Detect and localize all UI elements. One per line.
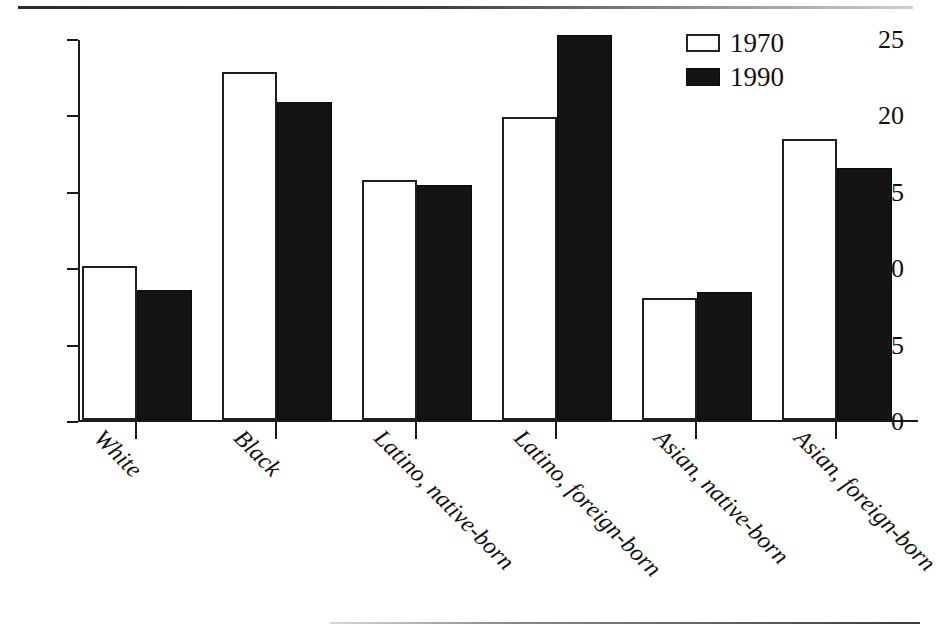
x-axis-label: Latino, native-born	[370, 425, 519, 574]
page-rule-top	[18, 6, 913, 9]
y-tick-mark	[67, 421, 78, 423]
y-tick-mark	[67, 115, 78, 117]
x-axis-labels: WhiteBlackLatino, native-bornLatino, for…	[78, 425, 938, 625]
bar-chart-figure: 2520151050 WhiteBlackLatino, native-born…	[0, 0, 941, 636]
bar-1990-latino-native-born	[417, 185, 472, 420]
x-axis	[78, 420, 918, 422]
bar-1970-white	[82, 266, 137, 420]
bar-1970-latino-foreign-born	[502, 117, 557, 420]
bar-1990-asian-native-born	[697, 292, 752, 420]
legend-label-1970: 1970	[730, 30, 784, 57]
bar-1970-latino-native-born	[362, 180, 417, 420]
bar-1990-asian-foreign-born	[837, 168, 892, 420]
legend-item-1970: 1970	[686, 26, 784, 60]
hollow-square-icon	[686, 34, 720, 52]
legend-item-1990: 1990	[686, 60, 784, 94]
y-tick-mark	[67, 345, 78, 347]
y-tick-mark	[67, 192, 78, 194]
x-axis-label: Black	[230, 425, 286, 481]
bar-1990-latino-foreign-born	[557, 35, 612, 420]
bar-1970-asian-foreign-born	[782, 139, 837, 420]
bar-1970-black	[222, 72, 277, 420]
bar-series-container	[80, 40, 918, 420]
x-axis-label: White	[90, 425, 147, 482]
y-tick-mark	[67, 268, 78, 270]
y-tick-mark	[67, 39, 78, 41]
bar-1990-black	[277, 102, 332, 420]
legend-label-1990: 1990	[730, 64, 784, 91]
bar-1970-asian-native-born	[642, 298, 697, 420]
filled-square-icon	[686, 68, 720, 86]
plot-area: 2520151050	[78, 40, 918, 422]
chart-legend: 1970 1990	[686, 26, 784, 94]
x-axis-label: Latino, foreign-born	[510, 425, 666, 581]
x-axis-label: Asian, foreign-born	[790, 425, 940, 575]
x-axis-label: Asian, native-born	[650, 425, 793, 568]
bar-1990-white	[137, 290, 192, 420]
